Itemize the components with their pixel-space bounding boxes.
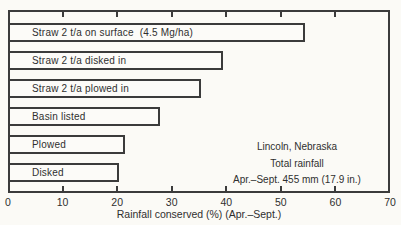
bar-label: Disked xyxy=(10,167,64,178)
x-tick-label-40: 40 xyxy=(220,196,232,208)
x-tick-label-20: 20 xyxy=(111,196,123,208)
axis-tick-30 xyxy=(171,186,173,191)
x-tick-label-70: 70 xyxy=(384,196,396,208)
x-tick-label-30: 30 xyxy=(166,196,178,208)
bar-straw-2-t-a-plowed-in: Straw 2 t/a plowed in xyxy=(8,79,201,98)
axis-tick-50 xyxy=(280,12,282,17)
annotation-line-location: Lincoln, Nebraska xyxy=(204,139,390,156)
bar-label: Straw 2 t/a on surface (4.5 Mg/ha) xyxy=(10,27,193,38)
annotation-line-rainfall: Total rainfall xyxy=(204,156,390,173)
bar-basin-listed: Basin listed xyxy=(8,107,160,126)
axis-tick-10 xyxy=(62,186,64,191)
bar-disked: Disked xyxy=(8,163,119,182)
axis-tick-20 xyxy=(116,12,118,17)
figure: Straw 2 t/a on surface (4.5 Mg/ha)Straw … xyxy=(0,0,401,225)
annotation-block: Lincoln, Nebraska Total rainfall Apr.–Se… xyxy=(204,139,390,189)
bar-label: Straw 2 t/a plowed in xyxy=(10,83,129,94)
bar-straw-2-t-a-disked-in: Straw 2 t/a disked in xyxy=(8,51,223,70)
axis-tick-40 xyxy=(225,12,227,17)
x-tick-label-50: 50 xyxy=(275,196,287,208)
bar-straw-2-t-a-on-surface-4-5-mg-ha: Straw 2 t/a on surface (4.5 Mg/ha) xyxy=(8,23,305,42)
axis-tick-10 xyxy=(62,12,64,17)
x-tick-label-60: 60 xyxy=(330,196,342,208)
axis-tick-60 xyxy=(334,12,336,17)
bar-label: Plowed xyxy=(10,139,66,150)
bar-label: Straw 2 t/a disked in xyxy=(10,55,126,66)
axis-tick-30 xyxy=(171,12,173,17)
bar-plowed: Plowed xyxy=(8,135,125,154)
bar-label: Basin listed xyxy=(10,111,86,122)
annotation-line-amount: Apr.–Sept. 455 mm (17.9 in.) xyxy=(204,172,390,189)
x-axis-tick-labels: 010203040506070 xyxy=(8,196,390,208)
x-axis-title: Rainfall conserved (%) (Apr.–Sept.) xyxy=(8,208,390,220)
x-tick-label-0: 0 xyxy=(5,196,11,208)
x-tick-label-10: 10 xyxy=(57,196,69,208)
axis-tick-20 xyxy=(116,186,118,191)
